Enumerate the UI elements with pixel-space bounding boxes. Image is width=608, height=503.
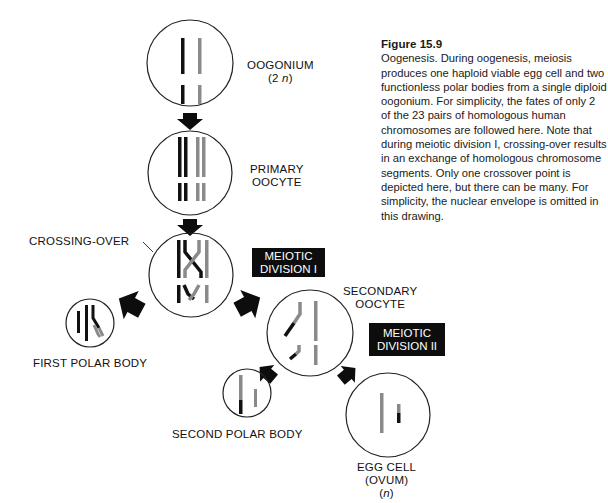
crossing-over-label: CROSSING-OVER [29,235,129,248]
figure-caption: Figure 15.9 Oogenesis. During oogenesis,… [381,37,607,223]
oogonium-cell [147,20,233,106]
primary-oocyte-label: PRIMARY OOCYTE [250,163,304,189]
second-polar-body-cell [223,369,271,417]
secondary-oocyte-label: SECONDARY OOCYTE [343,285,417,311]
primary-oocyte-cell [148,131,232,215]
arrow-right-down-icon [230,283,268,323]
secondary-oocyte-cell [267,290,353,376]
egg-cell-ploidy: (n) [379,487,394,499]
arrow-left-down-icon [111,284,149,324]
egg-cell-label: EGG CELL (OVUM) (n) [357,461,416,500]
first-polar-body-label: FIRST POLAR BODY [33,357,147,370]
oogonium-name: OOGONIUM [247,59,314,71]
oogonium-label: OOGONIUM (2 n) [247,59,314,85]
meiotic-division-1-box: MEIOTIC DIVISION I [252,248,325,277]
crossing-over-cell [143,233,233,317]
arrow-left-down-icon [253,359,282,388]
meiotic-division-2-box: MEIOTIC DIVISION II [369,323,445,356]
arrow-right-down-icon [334,360,363,389]
oogonium-ploidy: (2 n) [268,72,293,84]
first-polar-body-cell [66,299,114,347]
egg-cell [346,373,430,457]
figure-title: Figure 15.9 [381,37,607,51]
arrow-down-icon [177,113,203,130]
second-polar-body-label: SECOND POLAR BODY [172,428,303,441]
figure-caption-text: Oogenesis. During oogenesis, meiosis pro… [381,52,607,221]
